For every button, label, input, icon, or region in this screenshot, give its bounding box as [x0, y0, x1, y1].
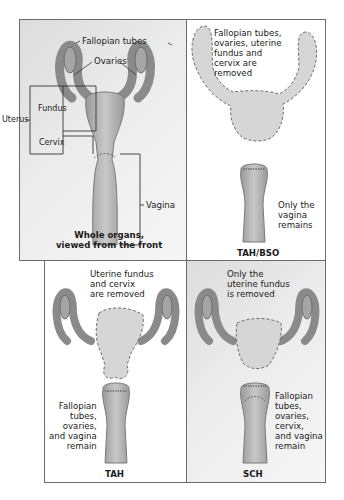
- note-tah-bso-remains: Only the vagina remains: [278, 200, 315, 230]
- removed-fundus-outline: [236, 319, 281, 369]
- note-tah-bso-removed: Fallopian tubes, ovaries, uterine fundus…: [214, 28, 282, 78]
- note-sch-removed: Only the uterine fundus is removed: [227, 269, 290, 299]
- label-cervix: Cervix: [39, 138, 65, 148]
- caption-tah-bso: TAH/BSO: [237, 248, 279, 258]
- right-ovary-icon: [135, 47, 147, 73]
- cervix-vagina-icon: [241, 383, 270, 463]
- label-fallopian-tubes: Fallopian tubes: [82, 36, 147, 46]
- right-ovary-icon: [302, 295, 312, 319]
- cervix-bracket: [63, 136, 93, 154]
- caption-sch: SCH: [243, 469, 263, 479]
- note-tah-remains: Fallopian tubes, ovaries, and vagina rem…: [49, 401, 97, 451]
- left-ovary-icon: [64, 47, 76, 73]
- caption-tah: TAH: [105, 469, 124, 479]
- uterus-icon: [86, 92, 125, 245]
- note-tah-removed: Uterine fundus and cervix are removed: [90, 269, 154, 299]
- note-sch-remains: Fallopian tubes, ovaries, cervix, and va…: [275, 391, 323, 451]
- vagina-icon: [103, 383, 130, 463]
- label-uterus: Uterus: [2, 115, 28, 125]
- panel-tah: Uterine fundus and cervix are removed Fa…: [44, 260, 187, 483]
- panel-whole-organs: Fallopian tubes Ovaries Uterus Fundus Ce…: [19, 19, 187, 261]
- right-ovary-icon: [162, 295, 172, 319]
- vagina-icon: [241, 164, 268, 242]
- label-ovaries: Ovaries: [94, 56, 127, 66]
- left-ovary-icon: [202, 295, 212, 319]
- left-ovary-icon: [60, 295, 70, 319]
- panel-sch: Only the uterine fundus is removed Fallo…: [186, 260, 326, 483]
- panel-tah-bso: Fallopian tubes, ovaries, uterine fundus…: [186, 19, 326, 261]
- label-fundus: Fundus: [38, 104, 67, 114]
- caption-whole-organs: Whole organs, viewed from the front: [56, 230, 162, 250]
- label-vagina: Vagina: [146, 200, 175, 210]
- removed-uterus-outline: [96, 308, 143, 379]
